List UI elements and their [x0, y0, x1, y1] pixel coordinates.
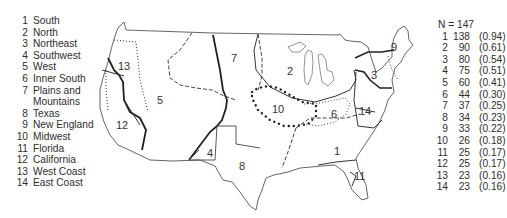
legend-row: 13West Coast	[12, 166, 94, 178]
stats-row: 933(0.22)	[434, 123, 506, 135]
legend-row: 4Southwest	[12, 50, 94, 62]
legend-row: 6Inner South	[12, 73, 94, 85]
region-label-11: 11	[354, 170, 365, 182]
legend-row: 9New England	[12, 119, 94, 131]
legend-row: 12California	[12, 154, 94, 166]
region-2-boundary	[254, 34, 356, 102]
region-7-boundary	[189, 35, 227, 160]
legend-row: 1South	[12, 15, 94, 27]
region-4-8-boundary	[189, 126, 260, 160]
region-2-dashed	[258, 34, 262, 90]
stats-row: 644(0.30)	[434, 89, 506, 101]
region-label-4: 4	[207, 147, 213, 159]
lake-michigan	[288, 42, 334, 86]
legend-row: Mountains	[12, 96, 94, 108]
region-label-7: 7	[231, 52, 237, 64]
region-label-6: 6	[331, 108, 337, 120]
region-1-florida-boundary	[318, 160, 356, 186]
region-label-13: 13	[118, 60, 130, 72]
region-label-2: 2	[287, 65, 293, 77]
legend-row: 7Plains and	[12, 85, 94, 97]
region-count-table: N = 147 1138(0.94) 290(0.61) 380(0.54) 4…	[434, 19, 506, 193]
region-label-5: 5	[157, 94, 163, 106]
region-legend: 1South 2North 3Northeast 4Southwest 5Wes…	[12, 15, 94, 189]
region-5-7-boundary	[168, 33, 236, 100]
region-label-8: 8	[239, 160, 245, 172]
legend-row: 2North	[12, 27, 94, 39]
legend-row: 8Texas	[12, 108, 94, 120]
legend-row: 5West	[12, 61, 94, 73]
region-label-12: 12	[116, 119, 128, 131]
region-13-boundary	[106, 40, 148, 112]
legend-row: 11Florida	[12, 143, 94, 155]
region-label-1: 1	[334, 145, 340, 157]
sample-size: N = 147	[434, 19, 506, 31]
legend-row: 3Northeast	[12, 38, 94, 50]
stats-row: 1423(0.16)	[434, 181, 506, 193]
region-label-9: 9	[391, 41, 397, 53]
stats-row: 834(0.23)	[434, 112, 506, 124]
stats-row: 1138(0.94)	[434, 31, 506, 43]
stats-row: 1125(0.17)	[434, 147, 506, 159]
stats-row: 1026(0.18)	[434, 135, 506, 147]
stats-row: 1323(0.16)	[434, 170, 506, 182]
region-label-14: 14	[359, 105, 371, 117]
region-6-boundary	[304, 98, 350, 126]
region-label-10: 10	[272, 103, 284, 115]
stats-row: 737(0.25)	[434, 100, 506, 112]
stats-row: 475(0.51)	[434, 65, 506, 77]
legend-row: 10Midwest	[12, 131, 94, 143]
region-6-dashed	[282, 114, 360, 168]
stats-row: 560(0.41)	[434, 77, 506, 89]
stats-row: 380(0.54)	[434, 54, 506, 66]
region-label-3: 3	[371, 69, 377, 81]
stats-row: 290(0.61)	[434, 42, 506, 54]
stats-row: 1225(0.17)	[434, 158, 506, 170]
region-14-boundary	[354, 72, 382, 128]
legend-row: 14East Coast	[12, 177, 94, 189]
